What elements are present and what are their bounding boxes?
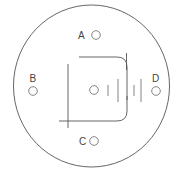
bottom-rounded-line [59, 96, 127, 121]
marker-b [29, 87, 38, 96]
point-c: C [79, 136, 98, 147]
label-b: B [30, 73, 37, 84]
label-d: D [152, 73, 159, 84]
label-c: C [79, 136, 86, 147]
label-a: A [78, 30, 85, 41]
outer-circle [14, 5, 170, 167]
marker-d [152, 87, 161, 96]
inner-frame [59, 53, 127, 128]
marker-c [90, 137, 99, 146]
center-marker [90, 86, 99, 95]
point-a: A [78, 30, 100, 41]
point-d: D [152, 73, 161, 95]
marker-a [92, 31, 101, 40]
top-rounded-line [79, 57, 127, 100]
bar-group [108, 79, 141, 102]
diagram-canvas: A B D C [0, 0, 182, 173]
point-b: B [29, 73, 38, 95]
